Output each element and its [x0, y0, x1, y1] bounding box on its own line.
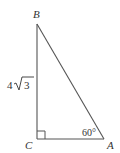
vertex-label-c: C [25, 139, 33, 151]
side-bc-radicand: 3 [24, 79, 30, 91]
triangle-diagram: B C A 4 3 60° [0, 0, 120, 153]
right-angle-marker [37, 131, 45, 139]
side-bc-length: 4 3 [7, 77, 34, 91]
angle-a-label: 60° [82, 127, 96, 138]
side-bc-coefficient: 4 [7, 79, 13, 91]
triangle [37, 24, 104, 139]
vertex-label-a: A [106, 139, 114, 151]
side-ab [37, 24, 104, 139]
vertex-label-b: B [33, 8, 40, 20]
